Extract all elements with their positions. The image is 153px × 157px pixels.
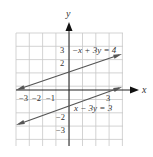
x-tick-label: −1 — [46, 93, 55, 103]
y-tick-label: 2 — [60, 58, 64, 68]
y-tick-label: −3 — [56, 125, 65, 135]
coordinate-graph: x y −3 −2 −1 3 3 2 −2 −3 −x + 3y = 4 x −… — [0, 0, 153, 157]
arrowhead-icon — [16, 120, 25, 125]
equation-label-upper: −x + 3y = 4 — [72, 45, 117, 55]
x-axis-label: x — [141, 84, 147, 95]
x-tick-label: −2 — [32, 93, 41, 103]
y-tick-label: −2 — [56, 112, 65, 122]
x-axis-arrow-icon — [130, 87, 139, 94]
y-axis-label: y — [65, 8, 71, 19]
x-tick-label: 3 — [106, 93, 110, 103]
x-tick-label: −3 — [19, 93, 28, 103]
y-axis-arrow-icon — [66, 22, 73, 31]
y-tick-label: 3 — [60, 45, 64, 55]
equation-label-lower: x − 3y = 3 — [73, 103, 113, 113]
